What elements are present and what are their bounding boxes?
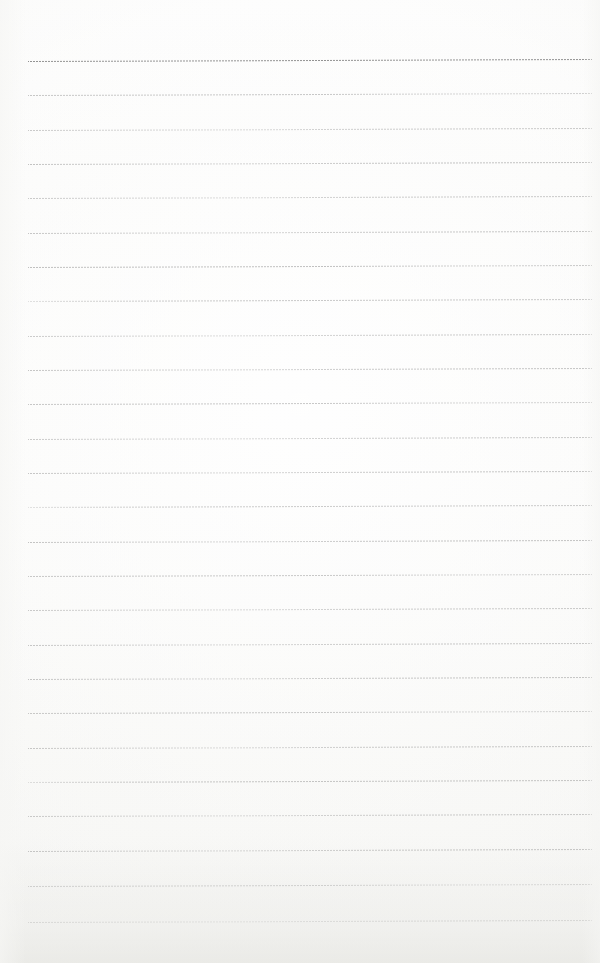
ruled-line: [28, 814, 592, 817]
ruled-line: [28, 299, 592, 302]
ruled-lines-layer: [0, 0, 600, 963]
ruled-line: [28, 59, 592, 62]
ruled-line: [28, 746, 592, 749]
ruled-line: [28, 265, 592, 268]
ruled-line: [28, 643, 592, 646]
ruled-line: [28, 334, 592, 337]
ruled-line: [28, 711, 592, 714]
ruled-line: [28, 540, 592, 543]
ruled-line: [28, 231, 592, 234]
ruled-line: [28, 162, 592, 165]
ruled-line: [28, 402, 592, 405]
ruled-line: [28, 128, 592, 131]
ruled-line: [28, 93, 592, 96]
ruled-line: [28, 608, 592, 611]
ruled-line: [28, 574, 592, 577]
ruled-line: [28, 505, 592, 508]
ruled-line: [28, 677, 592, 680]
ruled-line: [28, 368, 592, 371]
ruled-line: [28, 849, 592, 852]
ruled-line: [28, 884, 592, 887]
ruled-line: [28, 920, 592, 923]
ruled-line: [28, 471, 592, 474]
ruled-line: [28, 196, 592, 199]
scanned-page: [0, 0, 600, 963]
ruled-line: [28, 780, 592, 783]
ruled-line: [28, 437, 592, 440]
